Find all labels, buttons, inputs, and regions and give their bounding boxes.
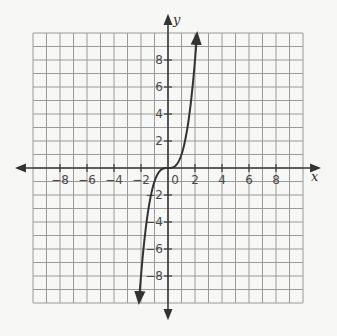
x-tick-label: −4 xyxy=(105,173,123,187)
x-tick-label: −6 xyxy=(78,173,96,187)
x-tick-label: 2 xyxy=(191,173,199,187)
x-axis-label: x xyxy=(311,169,319,184)
y-tick-label: 8 xyxy=(155,53,163,67)
x-tick-label: 4 xyxy=(218,173,226,187)
y-axis-label: y xyxy=(172,12,181,27)
x-tick-label: 0 xyxy=(171,173,179,187)
y-tick-label: −8 xyxy=(145,269,163,283)
y-tick-label: −6 xyxy=(145,242,163,256)
y-tick-label: −2 xyxy=(145,188,163,202)
x-tick-label: 8 xyxy=(272,173,280,187)
x-tick-label: 6 xyxy=(245,173,253,187)
x-tick-label: −2 xyxy=(132,173,150,187)
cubic-function-graph: −8−6−4−202468−8−6−4−22468 y x xyxy=(0,0,337,336)
y-tick-label: 6 xyxy=(155,80,163,94)
y-tick-label: 2 xyxy=(155,134,163,148)
y-tick-label: 4 xyxy=(155,107,163,121)
x-tick-label: −8 xyxy=(51,173,69,187)
